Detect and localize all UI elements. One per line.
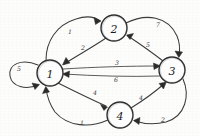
- edge-4-to-3-arrowhead: [159, 82, 166, 89]
- edge-3-to-1: 6: [63, 71, 161, 83]
- edge-3-to-4-arrowhead: [134, 118, 141, 125]
- edge-1-to-3: 3: [63, 59, 161, 70]
- node-4-label: 4: [116, 110, 124, 123]
- edge-1-to-4-label: 4: [92, 89, 97, 96]
- edge-3-to-2-label: 5: [146, 41, 150, 48]
- edge-2-to-3-arrowhead: [175, 51, 183, 58]
- edge-1-to-2: 1: [46, 17, 101, 60]
- node-4[interactable]: 4: [107, 102, 133, 128]
- edge-2-to-1-arrowhead: [63, 58, 71, 66]
- node-2[interactable]: 2: [101, 15, 127, 41]
- edge-1-to-3-path: [63, 66, 159, 69]
- edge-4-to-3: 4: [131, 82, 166, 108]
- edge-2-to-3: 7: [126, 17, 183, 57]
- edge-3-to-4-label: 2: [160, 116, 165, 123]
- edge-1-to-4-path: [58, 83, 106, 106]
- edge-1-to-2-path: [46, 17, 100, 60]
- edge-2-to-3-label: 7: [156, 21, 160, 28]
- edge-3-to-1-label: 6: [114, 76, 118, 83]
- edge-4-to-1-label: 1: [80, 119, 84, 126]
- edge-2-to-1-label: 2: [80, 44, 85, 51]
- edge-1-to-4: 4: [58, 83, 108, 111]
- node-1-label: 1: [47, 68, 54, 81]
- edge-2-to-3-path: [126, 17, 180, 56]
- node-3[interactable]: 3: [159, 57, 185, 83]
- edge-4-to-1-path: [46, 88, 108, 125]
- node-1[interactable]: 1: [37, 60, 63, 86]
- edge-2-to-1: 2: [63, 38, 107, 65]
- edge-1-to-2-label: 1: [68, 28, 72, 35]
- edge-1-to-3-label: 3: [115, 59, 119, 66]
- edge-3-to-2: 5: [127, 34, 164, 62]
- edge-4-to-1: 1: [43, 87, 109, 126]
- edge-1-to-2-arrowhead: [94, 18, 101, 25]
- edge-4-to-1-arrowhead: [43, 87, 50, 94]
- edge-4-to-3-path: [131, 83, 165, 108]
- edge-1-to-1-selfloop: 5: [10, 62, 40, 89]
- graph-diagram-canvas: 1 2 7 5 3 6: [0, 0, 200, 136]
- graph-svg: 1 2 7 5 3 6: [0, 0, 200, 136]
- node-2-label: 2: [110, 23, 118, 36]
- edge-3-to-1-path: [64, 74, 160, 76]
- edge-4-to-3-label: 4: [138, 94, 143, 101]
- edge-2-to-1-path: [64, 38, 106, 64]
- edge-1-to-1-selfloop-label: 5: [17, 65, 21, 72]
- node-3-label: 3: [169, 65, 176, 78]
